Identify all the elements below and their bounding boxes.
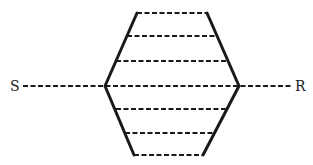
label-r: R <box>295 78 306 94</box>
label-s: S <box>10 78 20 94</box>
hexagon-diagram: S R <box>0 0 313 165</box>
dashed-rows <box>23 13 293 155</box>
